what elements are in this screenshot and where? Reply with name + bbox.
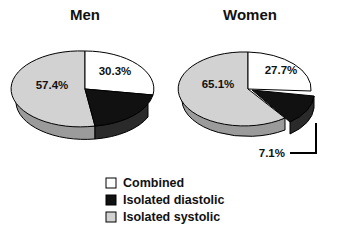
legend-label-isolated-systolic: Isolated systolic	[123, 210, 220, 224]
legend-swatch-combined	[106, 178, 116, 188]
legend-swatch-isolated-diastolic	[106, 195, 116, 205]
legend-item-isolated-diastolic[interactable]: Isolated diastolic	[106, 193, 224, 207]
legend-swatch-isolated-systolic	[106, 212, 116, 222]
women-combined-value: 27.7%	[265, 64, 298, 76]
pie-chart-figure: Men 30.3% 12.4% 57.4% Women	[0, 0, 346, 238]
legend-label-isolated-diastolic: Isolated diastolic	[123, 193, 224, 207]
men-chart-title: Men	[70, 6, 100, 23]
men-combined-value: 30.3%	[99, 65, 132, 77]
legend-item-isolated-systolic[interactable]: Isolated systolic	[106, 210, 220, 224]
women-chart-title: Women	[223, 6, 277, 23]
women-diastolic-value: 7.1%	[259, 147, 285, 159]
men-systolic-value: 57.4%	[36, 79, 69, 91]
men-diastolic-value: 12.4%	[98, 97, 131, 109]
legend-label-combined: Combined	[123, 176, 184, 190]
women-systolic-value: 65.1%	[202, 78, 235, 90]
